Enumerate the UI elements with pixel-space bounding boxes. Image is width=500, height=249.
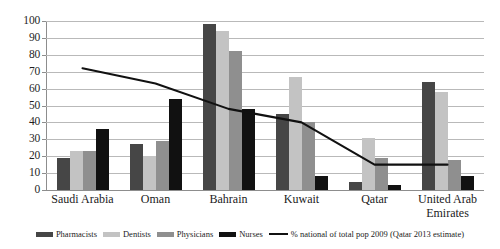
legend-item-physicians[interactable]: Physicians <box>157 230 213 239</box>
y-axis-label-30: 30 <box>10 133 40 145</box>
y-tick-60 <box>42 89 46 90</box>
legend-item-pharmacists[interactable]: Pharmacists <box>36 230 97 239</box>
legend-label: Dentists <box>123 230 151 239</box>
legend-label: Physicians <box>177 230 213 239</box>
bar-swatch-physicians <box>157 232 174 237</box>
y-axis-label-100: 100 <box>10 15 40 27</box>
x-axis-label-bahrain: Bahrain <box>192 193 265 207</box>
y-axis-label-70: 70 <box>10 66 40 78</box>
x-axis-label-oman: Oman <box>119 193 192 207</box>
y-axis-label-10: 10 <box>10 167 40 179</box>
y-axis-label-50: 50 <box>10 100 40 112</box>
y-axis-label-40: 40 <box>10 116 40 128</box>
legend-label: Nurses <box>239 230 263 239</box>
legend-label: % national of total pop 2009 (Qatar 2013… <box>291 230 464 239</box>
y-tick-20 <box>42 156 46 157</box>
y-axis-tick-labels: 1009080706050403020100 <box>0 0 40 249</box>
y-tick-90 <box>42 38 46 39</box>
y-axis-label-80: 80 <box>10 49 40 61</box>
y-tick-70 <box>42 72 46 73</box>
x-axis-label-qatar: Qatar <box>338 193 411 207</box>
y-tick-30 <box>42 139 46 140</box>
y-axis-label-20: 20 <box>10 150 40 162</box>
line-swatch-percent-national <box>269 233 288 235</box>
x-axis-label-united-arab-emirates: United Arab Emirates <box>411 193 484 220</box>
plot-area <box>46 21 484 190</box>
bar-swatch-pharmacists <box>36 232 53 237</box>
bar-swatch-dentists <box>103 232 120 237</box>
bar-pharmacists-united-arab-emirates <box>422 82 435 190</box>
y-tick-80 <box>42 55 46 56</box>
legend-item-national-of-total-pop-2009-qatar-2013-estimate[interactable]: % national of total pop 2009 (Qatar 2013… <box>269 230 464 239</box>
y-tick-0 <box>42 190 46 191</box>
y-axis-label-90: 90 <box>10 32 40 44</box>
bar-dentists-united-arab-emirates <box>435 92 448 190</box>
bar-swatch-nurses <box>219 232 236 237</box>
y-axis-label-0: 0 <box>10 184 40 196</box>
gridline-0 <box>46 190 484 191</box>
y-axis-label-60: 60 <box>10 83 40 95</box>
bar-group-united-arab-emirates <box>46 21 484 190</box>
legend-label: Pharmacists <box>56 230 97 239</box>
legend-item-dentists[interactable]: Dentists <box>103 230 151 239</box>
legend-item-nurses[interactable]: Nurses <box>219 230 263 239</box>
chart-legend: PharmacistsDentistsPhysiciansNurses% nat… <box>0 226 500 242</box>
bar-nurses-united-arab-emirates <box>461 176 474 190</box>
x-axis-label-saudi-arabia: Saudi Arabia <box>46 193 119 207</box>
bar-physicians-united-arab-emirates <box>448 160 461 190</box>
y-tick-10 <box>42 173 46 174</box>
x-axis-category-labels: Saudi ArabiaOmanBahrainKuwaitQatarUnited… <box>46 193 484 227</box>
x-axis-label-kuwait: Kuwait <box>265 193 338 207</box>
y-tick-100 <box>42 21 46 22</box>
y-tick-50 <box>42 106 46 107</box>
y-tick-40 <box>42 122 46 123</box>
bar-chart: 1009080706050403020100 Saudi ArabiaOmanB… <box>0 0 500 249</box>
